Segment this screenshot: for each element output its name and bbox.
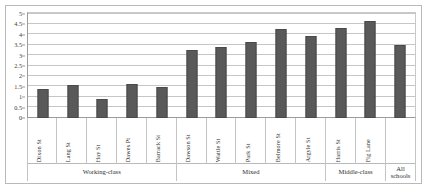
y-axis-tick-mark: [22, 34, 25, 35]
group-label-band: Working-classMixedMiddle-classAll school…: [27, 164, 416, 181]
x-axis-tick-label: Belmore St: [275, 133, 281, 162]
y-axis-tick-mark: [22, 86, 25, 87]
group-cell: All schools: [386, 164, 416, 181]
bar[interactable]: [276, 29, 287, 118]
x-axis-tick-label: Fig Lane: [364, 139, 370, 162]
bar-slot: [326, 13, 356, 118]
bar[interactable]: [186, 50, 197, 118]
bar-slot: [355, 13, 385, 118]
x-axis-tick-label: Wattle St: [215, 138, 221, 162]
category-cell: Hay St: [87, 118, 117, 164]
y-axis-tick-mark: [22, 76, 25, 77]
x-axis-tick-label: Hay St: [95, 144, 101, 162]
bar[interactable]: [395, 45, 406, 119]
category-cell: Dawes Pt: [117, 118, 147, 164]
x-axis-tick-label: Dixon St: [36, 139, 42, 162]
x-axis-tick-label: Park St: [245, 143, 251, 162]
bar[interactable]: [305, 36, 316, 118]
category-cell: Lang St: [57, 118, 87, 164]
bar[interactable]: [67, 85, 78, 118]
bar-slot: [88, 13, 118, 118]
bar[interactable]: [127, 84, 138, 118]
category-cell: Wattle St: [207, 118, 237, 164]
x-axis-tick-label: Dawes Pt: [125, 138, 131, 162]
category-label-band: Dixon StLang StHay StDawes PtBarrack StD…: [27, 118, 416, 164]
category-cell: Park St: [236, 118, 266, 164]
bar[interactable]: [216, 47, 227, 118]
y-axis-tick-mark: [22, 55, 25, 56]
x-axis-tick-label: Barrack St: [155, 135, 161, 162]
y-axis-tick-mark: [22, 24, 25, 25]
y-axis-tick-mark: [22, 66, 25, 67]
group-cell: Mixed: [177, 164, 327, 181]
group-cell: Working-class: [27, 164, 177, 181]
bar[interactable]: [37, 89, 48, 118]
bar-slot: [207, 13, 237, 118]
category-cell: Belmore St: [266, 118, 296, 164]
category-cell: Fig Lane: [356, 118, 386, 164]
y-axis-tick-mark: [22, 118, 25, 119]
category-cell: Harris St: [326, 118, 356, 164]
bars-layer: [28, 13, 415, 118]
bar[interactable]: [365, 21, 376, 118]
category-cell: Argyle St: [296, 118, 326, 164]
category-cell: Dawson St: [177, 118, 207, 164]
y-axis-tick-mark: [22, 97, 25, 98]
group-cell: Middle-class: [326, 164, 386, 181]
group-label: Middle-class: [339, 169, 373, 176]
y-axis-tick-label: 0.5: [14, 104, 22, 110]
bar-slot: [147, 13, 177, 118]
y-axis-tick-label: 4.5: [14, 21, 22, 27]
x-axis-tick-label: Argyle St: [305, 137, 311, 162]
bar[interactable]: [156, 87, 167, 119]
group-label: Mixed: [242, 169, 259, 176]
x-axis-tick-label: Dawson St: [185, 134, 191, 162]
x-axis-tick-label: Lang St: [65, 142, 71, 162]
bar-slot: [385, 13, 415, 118]
bar-slot: [266, 13, 296, 118]
bar[interactable]: [246, 42, 257, 118]
group-label: Working-class: [83, 169, 121, 176]
bar-slot: [117, 13, 147, 118]
group-label: All schools: [391, 166, 411, 180]
y-axis: 00.511.522.533.544.55: [0, 12, 25, 119]
category-cell: Dixon St: [27, 118, 57, 164]
bar[interactable]: [97, 99, 108, 118]
category-cell: Barrack St: [147, 118, 177, 164]
y-axis-tick-label: 1.5: [14, 84, 22, 90]
bar[interactable]: [335, 28, 346, 118]
bar-chart-figure: 00.511.522.533.544.55 Dixon StLang StHay…: [0, 0, 428, 190]
y-axis-tick-label: 2.5: [14, 63, 22, 69]
category-cell: [386, 118, 416, 164]
bar-slot: [236, 13, 266, 118]
bar-slot: [296, 13, 326, 118]
y-axis-tick-mark: [22, 45, 25, 46]
x-axis-tick-label: Harris St: [334, 139, 340, 162]
y-axis-tick-mark: [22, 107, 25, 108]
y-axis-tick-mark: [22, 14, 25, 15]
y-axis-tick-label: 3.5: [14, 42, 22, 48]
bar-slot: [177, 13, 207, 118]
bar-slot: [28, 13, 58, 118]
bar-slot: [58, 13, 88, 118]
